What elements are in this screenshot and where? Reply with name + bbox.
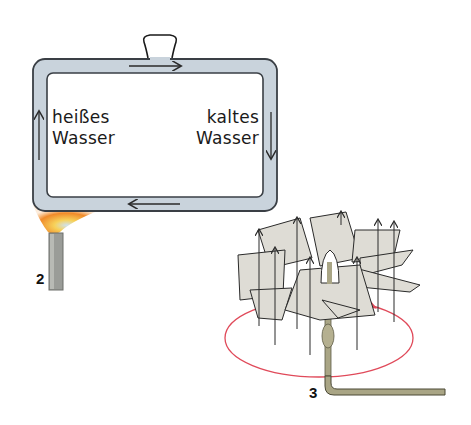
hot-label-line2: Wasser: [52, 128, 115, 149]
diagram-graphics: [0, 0, 471, 425]
figure-2-convection-loop: [33, 35, 277, 290]
filler-knob: [144, 35, 177, 58]
cold-label-line1: kaltes: [196, 107, 259, 128]
hot-label-line1: heißes: [52, 107, 115, 128]
cold-water-label: kaltes Wasser: [196, 107, 259, 149]
figure-3-number: 3: [309, 384, 317, 401]
figure-2-number: 2: [36, 270, 44, 287]
cold-label-line2: Wasser: [196, 128, 259, 149]
figure-3-paper-spiral: [225, 212, 445, 395]
hot-water-label: heißes Wasser: [52, 107, 115, 149]
